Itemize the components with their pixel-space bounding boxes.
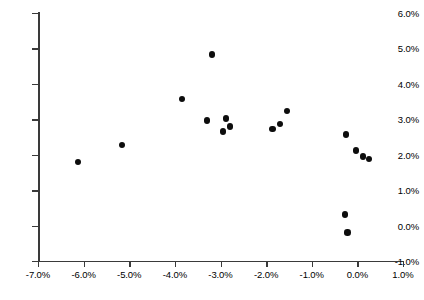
- x-tick-mark: [312, 261, 313, 267]
- x-tick-label: -1.0%: [289, 269, 335, 280]
- y-axis-line: [38, 12, 40, 262]
- data-point: [343, 131, 349, 137]
- data-point: [179, 96, 185, 102]
- x-tick-label: -5.0%: [106, 269, 152, 280]
- data-point: [277, 121, 283, 127]
- x-tick-label: -4.0%: [152, 269, 198, 280]
- x-tick-label: -3.0%: [198, 269, 244, 280]
- y-tick-mark: [32, 13, 38, 14]
- x-tick-label: 0.0%: [334, 269, 380, 280]
- x-tick-mark: [84, 261, 85, 267]
- y-tick-mark: [32, 119, 38, 120]
- plot-area: [38, 13, 403, 261]
- x-tick-mark: [175, 261, 176, 267]
- y-tick-mark: [32, 48, 38, 49]
- data-point: [119, 142, 125, 148]
- data-point: [204, 117, 210, 123]
- x-tick-mark: [266, 261, 267, 267]
- x-tick-label: -7.0%: [15, 269, 61, 280]
- y-tick-mark: [32, 84, 38, 85]
- x-tick-mark: [38, 261, 39, 267]
- y-tick-label: 6.0%: [389, 8, 419, 19]
- x-tick-label: 1.0%: [380, 269, 424, 280]
- data-point: [269, 126, 275, 132]
- x-tick-mark: [221, 261, 222, 267]
- y-tick-label: 5.0%: [389, 43, 419, 54]
- data-point: [342, 211, 348, 217]
- x-tick-mark: [357, 261, 358, 267]
- y-tick-label: 3.0%: [389, 114, 419, 125]
- y-tick-label: 1.0%: [389, 185, 419, 196]
- x-tick-label: -6.0%: [61, 269, 107, 280]
- x-tick-label: -2.0%: [243, 269, 289, 280]
- y-tick-label: 2.0%: [389, 149, 419, 160]
- y-tick-label: 4.0%: [389, 78, 419, 89]
- data-point: [220, 128, 226, 134]
- data-point: [227, 123, 233, 129]
- y-tick-mark: [32, 155, 38, 156]
- data-point: [344, 229, 350, 235]
- x-tick-mark: [129, 261, 130, 267]
- y-tick-mark: [32, 226, 38, 227]
- y-tick-mark: [32, 190, 38, 191]
- y-tick-label: 0.0%: [389, 220, 419, 231]
- data-point: [353, 147, 359, 153]
- data-point: [223, 115, 229, 121]
- x-tick-mark: [403, 261, 404, 267]
